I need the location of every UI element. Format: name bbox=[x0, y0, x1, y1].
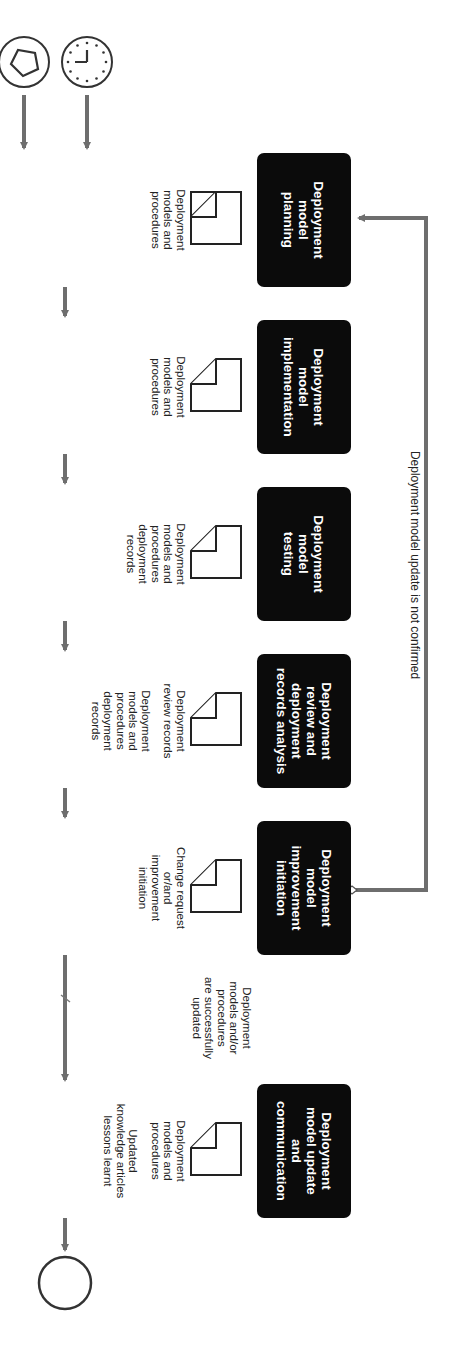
output-line: Deployment bbox=[175, 337, 188, 437]
condition-line: procedures bbox=[216, 958, 229, 1078]
output-line: deployment bbox=[137, 504, 150, 604]
feedback-loop-label: Deployment model update is not confirmed bbox=[409, 400, 422, 730]
success-condition-label: Deployment models and/or procedures are … bbox=[191, 958, 254, 1078]
output-line: lessons learnt bbox=[102, 1091, 115, 1211]
output-line: models and bbox=[162, 337, 175, 437]
output-label-3: Deployment models and procedures deploym… bbox=[125, 504, 188, 604]
step-label-line: model update bbox=[304, 1101, 319, 1201]
step-label-line: testing bbox=[282, 515, 297, 592]
output-line: or/and bbox=[162, 833, 175, 943]
step-label-line: model bbox=[304, 846, 319, 931]
output-line: initiation bbox=[137, 833, 150, 943]
output-label-5: Change request or/and improvement initia… bbox=[137, 833, 187, 943]
output-label-4: Deployment review records Deployment mod… bbox=[90, 666, 188, 776]
step-label-line: initiation bbox=[274, 846, 289, 931]
step-label-line: model bbox=[297, 337, 312, 437]
step-label-line: Deployment bbox=[312, 337, 327, 437]
output-line: Deployment bbox=[140, 666, 153, 776]
step-label-line: model bbox=[297, 181, 312, 258]
step-label-line: review and bbox=[304, 668, 319, 775]
step-deployment-model-update-and-communication[interactable]: Deployment model update and communicatio… bbox=[257, 1084, 351, 1218]
step-label-line: deployment bbox=[289, 668, 304, 775]
step-label-line: Deployment bbox=[312, 181, 327, 258]
step-label-line: Deployment bbox=[319, 846, 334, 931]
step-deployment-model-implementation[interactable]: Deployment model implementation bbox=[257, 320, 351, 454]
document-icon-3 bbox=[191, 526, 241, 578]
output-line: records bbox=[125, 504, 138, 604]
output-line: models and bbox=[162, 170, 175, 270]
step-label-line: implementation bbox=[282, 337, 297, 437]
output-line: models and bbox=[162, 1091, 175, 1211]
step-label-line: communication bbox=[274, 1101, 289, 1201]
step-deployment-model-testing[interactable]: Deployment model testing bbox=[257, 487, 351, 621]
step-label-line: Deployment bbox=[319, 1101, 334, 1201]
output-line: Deployment bbox=[175, 1091, 188, 1211]
step-label-line: Deployment bbox=[312, 515, 327, 592]
step-label-line: Deployment bbox=[319, 668, 334, 775]
document-icon-2 bbox=[191, 359, 241, 411]
condition-line: updated bbox=[191, 958, 204, 1078]
output-line: Deployment bbox=[175, 504, 188, 604]
output-line: procedures bbox=[115, 666, 128, 776]
step-label-line: and bbox=[289, 1101, 304, 1201]
output-line: procedures bbox=[150, 1091, 163, 1211]
output-line: knowledge articles bbox=[115, 1091, 128, 1211]
output-line: Deployment bbox=[175, 666, 188, 776]
condition-line: models and/or bbox=[228, 958, 241, 1078]
document-icon-4 bbox=[191, 693, 241, 745]
output-line: models and bbox=[162, 504, 175, 604]
output-line: Updated bbox=[127, 1091, 140, 1211]
output-label-6: Deployment models and procedures Updated… bbox=[102, 1091, 187, 1211]
output-line: models and bbox=[127, 666, 140, 776]
step-label-line: planning bbox=[282, 181, 297, 258]
output-line: procedures bbox=[150, 337, 163, 437]
output-line: deployment bbox=[102, 666, 115, 776]
document-icon-6 bbox=[191, 1123, 241, 1175]
condition-line: are successfully bbox=[203, 958, 216, 1078]
document-icon-1 bbox=[191, 192, 241, 244]
step-label-line: model bbox=[297, 515, 312, 592]
output-line: procedures bbox=[150, 504, 163, 604]
step-label-line: improvement bbox=[289, 846, 304, 931]
diagram-canvas: Deployment model planning Deployment mod… bbox=[0, 0, 463, 1345]
step-label-line: records analysis bbox=[274, 668, 289, 775]
output-label-1: Deployment models and procedures bbox=[150, 170, 188, 270]
output-line: procedures bbox=[150, 170, 163, 270]
step-deployment-model-planning[interactable]: Deployment model planning bbox=[257, 153, 351, 287]
document-icon-5 bbox=[191, 860, 241, 912]
output-label-2: Deployment models and procedures bbox=[150, 337, 188, 437]
document-layer bbox=[0, 0, 463, 1345]
output-line: records bbox=[90, 666, 103, 776]
output-line: review records bbox=[162, 666, 175, 776]
output-line: Change request bbox=[175, 833, 188, 943]
output-line: Deployment bbox=[175, 170, 188, 270]
output-line: improvement bbox=[150, 833, 163, 943]
condition-line: Deployment bbox=[241, 958, 254, 1078]
step-deployment-review-and-records-analysis[interactable]: Deployment review and deployment records… bbox=[257, 654, 351, 788]
step-deployment-model-improvement-initiation[interactable]: Deployment model improvement initiation bbox=[257, 821, 351, 955]
